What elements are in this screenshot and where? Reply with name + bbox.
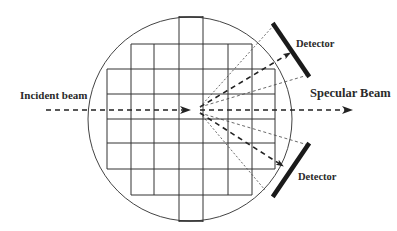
detector-top <box>274 25 308 75</box>
detector-bottom-label: Detector <box>298 172 336 183</box>
scattered-beams-upper <box>200 25 308 107</box>
diagram-svg <box>0 0 397 231</box>
detector-top-label: Detector <box>296 39 334 50</box>
sample-grid <box>107 16 275 222</box>
diagram-canvas: Incident beam Specular Beam Detector Det… <box>0 0 397 231</box>
detector-bottom <box>274 145 308 195</box>
specular-beam-label: Specular Beam <box>310 87 391 100</box>
incident-beam-label: Incident beam <box>20 90 88 101</box>
